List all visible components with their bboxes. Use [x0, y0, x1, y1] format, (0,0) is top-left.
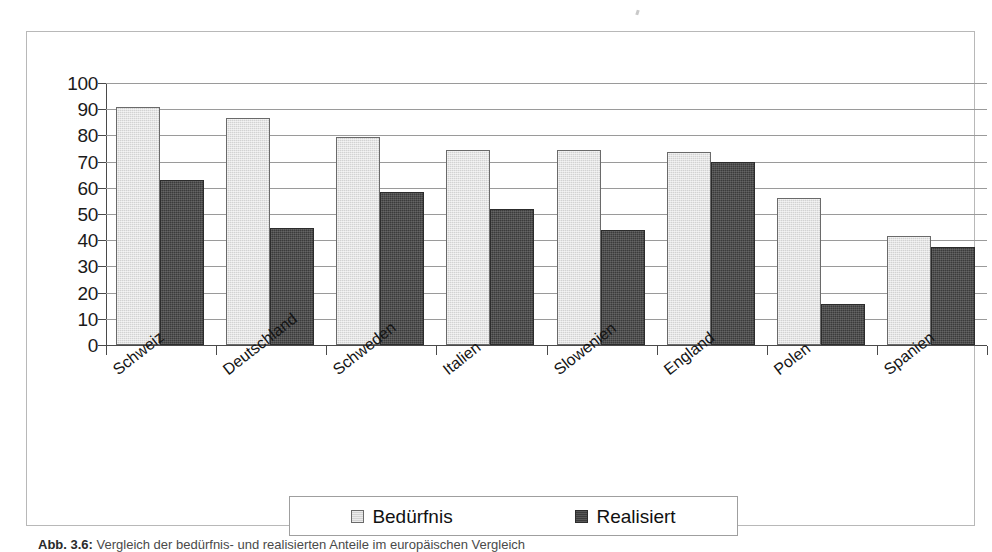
x-tick-mark-1: [216, 346, 217, 355]
plot-area: [106, 83, 987, 345]
figure-caption: Abb. 3.6: Vergleich der bedürfnis- und r…: [38, 538, 968, 552]
bar-england-bedrfnis: [667, 152, 711, 345]
y-tick-mark-70: [98, 162, 106, 163]
y-tick-label-10: 10: [77, 309, 98, 328]
y-tick-mark-40: [98, 240, 106, 241]
x-tick-mark-2: [326, 346, 327, 355]
x-tick-mark-4: [547, 346, 548, 355]
y-tick-mark-10: [98, 319, 106, 320]
gridline-90: [106, 109, 987, 110]
legend-entry-realisiert[interactable]: Realisiert: [575, 507, 675, 526]
bar-polen-realisiert: [821, 304, 865, 345]
legend-label-beduerfnis: Bedürfnis: [372, 507, 452, 526]
bar-schweiz-realisiert: [160, 180, 204, 345]
figure-frame: 0102030405060708090100 Bedürfnis Realisi…: [26, 31, 975, 526]
bar-schweden-bedrfnis: [336, 137, 380, 345]
figure-caption-text: Vergleich der bedürfnis- und realisierte…: [97, 538, 526, 552]
y-tick-mark-0: [98, 345, 106, 346]
y-tick-mark-30: [98, 266, 106, 267]
scan-artifact-speck: [635, 10, 639, 16]
legend-label-realisiert: Realisiert: [596, 507, 675, 526]
y-tick-mark-20: [98, 293, 106, 294]
y-tick-mark-90: [98, 109, 106, 110]
legend-swatch-realisiert: [575, 510, 588, 523]
legend-entry-beduerfnis[interactable]: Bedürfnis: [351, 507, 452, 526]
bar-deutschland-bedrfnis: [226, 118, 270, 345]
bar-polen-bedrfnis: [777, 198, 821, 345]
y-tick-label-90: 90: [77, 100, 98, 119]
y-tick-label-70: 70: [77, 152, 98, 171]
y-tick-label-100: 100: [67, 74, 98, 93]
y-tick-mark-60: [98, 188, 106, 189]
bar-england-realisiert: [711, 162, 755, 345]
x-tick-mark-6: [767, 346, 768, 355]
y-tick-label-60: 60: [77, 178, 98, 197]
y-tick-label-0: 0: [88, 336, 98, 355]
y-tick-label-80: 80: [77, 126, 98, 145]
bar-italien-realisiert: [490, 209, 534, 345]
x-tick-mark-end: [987, 346, 988, 355]
y-axis-labels: 0102030405060708090100: [27, 32, 98, 525]
x-tick-mark-3: [436, 346, 437, 355]
y-tick-mark-100: [98, 83, 106, 84]
figure-caption-prefix: Abb. 3.6:: [38, 538, 93, 552]
y-tick-label-20: 20: [77, 283, 98, 302]
y-tick-label-40: 40: [77, 231, 98, 250]
bar-italien-bedrfnis: [446, 150, 490, 345]
y-tick-mark-50: [98, 214, 106, 215]
y-tick-label-30: 30: [77, 257, 98, 276]
chart-legend: Bedürfnis Realisiert: [289, 496, 738, 536]
bar-spanien-realisiert: [931, 247, 975, 345]
bar-schweiz-bedrfnis: [116, 107, 160, 345]
x-tick-mark-0: [106, 346, 107, 355]
gridline-100: [106, 83, 987, 84]
x-tick-mark-5: [657, 346, 658, 355]
y-tick-mark-80: [98, 135, 106, 136]
bar-slowenien-bedrfnis: [557, 150, 601, 345]
legend-swatch-beduerfnis: [351, 510, 364, 523]
y-tick-label-50: 50: [77, 205, 98, 224]
x-tick-mark-7: [877, 346, 878, 355]
